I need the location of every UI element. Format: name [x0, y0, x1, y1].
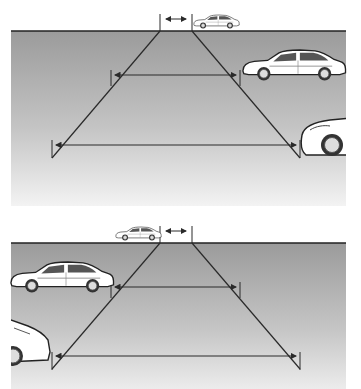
car-distant-icon [194, 15, 239, 28]
parking-guide-diagram [0, 0, 361, 389]
panel-top [11, 14, 352, 206]
car-distant-icon [116, 227, 161, 240]
panel-bottom [3, 226, 346, 389]
